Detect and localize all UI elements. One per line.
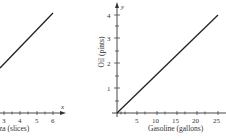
right-y-tick-3: 3 (107, 35, 111, 43)
right-y-var: y (120, 3, 125, 11)
right-x-axis-title: Gasoline (gallons) (148, 124, 204, 133)
left-data-line (0, 13, 53, 68)
right-chart: y 1 2 3 4 Oil (pints) (97, 2, 226, 133)
right-y-tick-4: 4 (107, 12, 111, 20)
right-y-axis-title: Oil (pints) (97, 36, 106, 68)
left-x-axis-arrow-icon (60, 111, 66, 115)
right-x-tick-25: 25 (213, 117, 221, 125)
left-x-tick-6: 6 (51, 117, 55, 125)
right-y-tick-2: 2 (107, 60, 111, 68)
right-y-axis-arrow-icon (115, 2, 119, 8)
left-chart: 3 4 5 6 x za (slices) (0, 13, 66, 133)
charts-canvas: 3 4 5 6 x za (slices) y 1 2 3 4 Oil (pin… (0, 0, 226, 140)
left-x-axis-title: za (slices) (0, 124, 30, 133)
left-x-tick-5: 5 (35, 117, 39, 125)
right-y-tick-1: 1 (107, 85, 111, 93)
right-data-line (117, 15, 218, 113)
right-x-tick-5: 5 (135, 117, 139, 125)
left-x-var: x (60, 103, 65, 111)
